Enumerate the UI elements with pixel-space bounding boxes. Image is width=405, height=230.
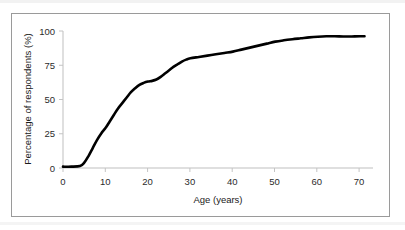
x-axis-tick-labels: 0 10 20 30 40 50 60 70 (60, 176, 364, 187)
y-axis-ticks (59, 31, 63, 168)
x-axis-ticks (63, 168, 359, 172)
x-tick-label: 30 (185, 176, 196, 187)
x-tick-label: 70 (354, 176, 365, 187)
x-tick-label: 40 (227, 176, 238, 187)
x-tick-label: 0 (60, 176, 65, 187)
x-axis-title: Age (years) (193, 194, 242, 205)
x-tick-label: 10 (100, 176, 111, 187)
y-tick-label: 100 (39, 26, 55, 37)
line-chart: 100 75 50 25 0 0 10 20 30 40 50 60 70 Ag… (11, 13, 390, 217)
figure-container: 100 75 50 25 0 0 10 20 30 40 50 60 70 Ag… (0, 0, 405, 230)
y-axis-tick-labels: 100 75 50 25 0 (39, 26, 55, 174)
x-tick-label: 50 (269, 176, 280, 187)
y-tick-label: 0 (50, 163, 55, 174)
x-tick-label: 60 (312, 176, 323, 187)
bottom-edge-shading (0, 222, 405, 225)
x-tick-label: 20 (142, 176, 153, 187)
y-tick-label: 75 (44, 60, 55, 71)
y-tick-label: 50 (44, 94, 55, 105)
top-edge-shading (0, 0, 405, 3)
data-series-line (63, 36, 365, 166)
y-tick-label: 25 (44, 128, 55, 139)
y-axis-title: Percentage of respondents (%) (22, 33, 33, 165)
